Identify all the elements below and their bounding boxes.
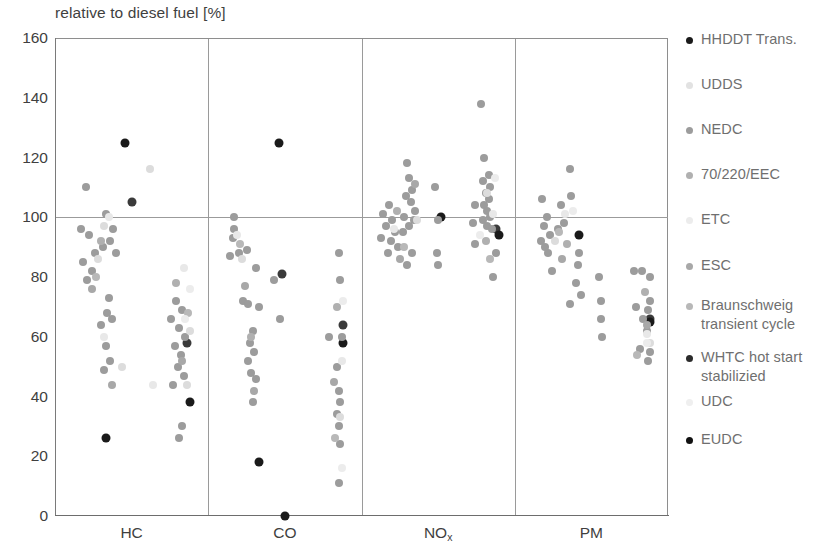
data-point xyxy=(185,398,194,407)
data-point xyxy=(643,330,651,338)
data-point xyxy=(335,422,343,430)
legend-marker-icon xyxy=(686,437,693,444)
data-point xyxy=(335,479,343,487)
data-point xyxy=(646,297,654,305)
x-tick-label-pm: PM xyxy=(580,524,603,542)
legend-item-esc[interactable]: ESC xyxy=(686,256,828,275)
data-point xyxy=(127,198,136,207)
data-point xyxy=(558,255,566,263)
data-point xyxy=(563,240,571,248)
data-point xyxy=(491,174,499,182)
data-point xyxy=(641,288,649,296)
data-point xyxy=(92,273,100,281)
data-point xyxy=(577,291,585,299)
data-point xyxy=(325,333,333,341)
legend-item-hhddt-trans[interactable]: HHDDT Trans. xyxy=(686,30,828,49)
data-point xyxy=(482,237,490,245)
legend-marker-icon xyxy=(686,399,693,406)
data-point xyxy=(483,189,491,197)
y-axis-line xyxy=(55,38,56,516)
legend-marker-icon xyxy=(686,303,693,310)
data-point xyxy=(632,303,640,311)
data-point xyxy=(477,100,485,108)
data-point xyxy=(230,213,238,221)
data-point xyxy=(109,225,117,233)
data-point xyxy=(331,434,339,442)
legend-item-eudc[interactable]: EUDC xyxy=(686,430,828,449)
data-point xyxy=(250,348,258,356)
data-point xyxy=(88,285,96,293)
legend-item-whtc-hot-start-stabilizied[interactable]: WHTC hot start stabilizied xyxy=(686,348,828,386)
data-point xyxy=(254,458,263,467)
data-point xyxy=(569,207,577,215)
data-point xyxy=(408,249,416,257)
legend-item-udc[interactable]: UDC xyxy=(686,392,828,411)
data-point xyxy=(434,261,442,269)
data-point xyxy=(335,249,343,257)
data-point xyxy=(249,398,257,406)
data-point xyxy=(105,213,113,221)
data-point xyxy=(238,255,246,263)
data-point xyxy=(276,315,284,323)
data-point xyxy=(178,422,186,430)
data-point xyxy=(274,138,283,147)
data-point xyxy=(226,252,234,260)
legend-item-etc[interactable]: ETC xyxy=(686,210,828,229)
data-point xyxy=(566,165,574,173)
y-tick-label: 0 xyxy=(4,507,48,525)
x-tick-label-hc: HC xyxy=(120,524,142,542)
legend-item-nedc[interactable]: NEDC xyxy=(686,120,828,139)
data-point xyxy=(338,333,346,341)
legend-item-udds[interactable]: UDDS xyxy=(686,75,828,94)
legend-item-braunschweig-transient-cycle[interactable]: Braunschweig transient cycle xyxy=(686,296,828,334)
x-tick-label-co: CO xyxy=(273,524,296,542)
data-point xyxy=(247,333,255,341)
data-point xyxy=(567,192,575,200)
legend-item-label: EUDC xyxy=(701,430,743,449)
y-tick-label: 120 xyxy=(4,149,48,167)
data-point xyxy=(575,249,583,257)
data-point xyxy=(336,398,344,406)
data-point xyxy=(175,434,183,442)
data-point xyxy=(171,342,179,350)
data-point xyxy=(336,413,344,421)
data-point xyxy=(280,512,289,521)
data-point xyxy=(82,183,90,191)
y-tick-label: 100 xyxy=(4,208,48,226)
data-point xyxy=(167,315,175,323)
data-point xyxy=(252,375,260,383)
data-point xyxy=(638,267,646,275)
data-point xyxy=(100,222,108,230)
data-point xyxy=(538,195,546,203)
data-point xyxy=(330,378,338,386)
data-point xyxy=(384,249,392,257)
x-tick-label-nox: NOx xyxy=(424,524,453,542)
legend-item-label: HHDDT Trans. xyxy=(701,30,797,49)
y-tick-label: 140 xyxy=(4,89,48,107)
data-point xyxy=(118,363,126,371)
data-point xyxy=(644,357,652,365)
data-point xyxy=(100,366,108,374)
legend-item-label: WHTC hot start stabilizied xyxy=(701,348,828,386)
data-point xyxy=(471,201,479,209)
data-point xyxy=(471,240,479,248)
y-tick-label: 60 xyxy=(4,328,48,346)
legend-marker-icon xyxy=(686,172,693,179)
data-point xyxy=(377,234,385,242)
data-point xyxy=(255,303,263,311)
nox-subscript: x xyxy=(447,531,452,543)
data-point xyxy=(169,381,177,389)
legend-marker-icon xyxy=(686,127,693,134)
data-point xyxy=(633,351,641,359)
reference-line-100 xyxy=(56,217,668,218)
data-point xyxy=(252,264,260,272)
data-point xyxy=(233,231,241,239)
data-point xyxy=(572,279,580,287)
data-point xyxy=(244,300,252,308)
data-point xyxy=(385,201,393,209)
data-point xyxy=(400,243,408,251)
data-point xyxy=(598,333,606,341)
legend-item-70-220-eec[interactable]: 70/220/EEC xyxy=(686,165,828,184)
panel-divider xyxy=(362,39,363,515)
y-tick-label: 160 xyxy=(4,29,48,47)
